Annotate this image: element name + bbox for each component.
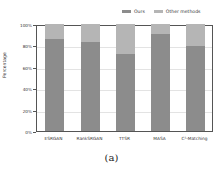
bar-segment-ours (45, 39, 64, 131)
y-tick-label: 100% (20, 23, 32, 28)
x-tick-label: ESRGAN (45, 136, 63, 141)
x-tick-label: TTSR (119, 136, 130, 141)
y-tick-label: 0% (25, 130, 32, 135)
y-tick-mark (33, 132, 36, 133)
y-tick-label: 40% (23, 87, 32, 92)
bar-segment-ours (151, 34, 170, 131)
x-tick-label: MASA (153, 136, 165, 141)
x-tick-label: RankSRGAN (77, 136, 103, 141)
legend-label-ours: Ours (134, 9, 145, 14)
legend-item-other: Other methods (154, 9, 201, 14)
y-tick-label: 80% (23, 44, 32, 49)
y-tick-label: 20% (23, 108, 32, 113)
bar-segment-other-methods (116, 24, 135, 54)
legend-label-other: Other methods (166, 9, 201, 14)
bar-segment-other-methods (81, 24, 100, 42)
bar-segment-ours (81, 42, 100, 131)
legend-swatch-other (154, 10, 163, 14)
bar-c-matching (186, 24, 205, 131)
bar-masa (151, 24, 170, 131)
legend-swatch-ours (122, 10, 131, 14)
legend-item-ours: Ours (122, 9, 145, 14)
bar-ranksrgan (81, 24, 100, 131)
figure-caption: (a) (0, 152, 223, 163)
bar-esrgan (45, 24, 64, 131)
bar-segment-other-methods (186, 24, 205, 46)
x-tick-label: C²-Matching (181, 136, 207, 141)
bar-segment-other-methods (45, 24, 64, 39)
chart-legend: Ours Other methods (122, 9, 209, 14)
bar-segment-other-methods (151, 24, 170, 34)
y-tick-label: 60% (23, 65, 32, 70)
bar-segment-ours (116, 54, 135, 131)
bar-ttsr (116, 24, 135, 131)
bar-segment-ours (186, 46, 205, 131)
plot-area (36, 25, 213, 132)
y-axis-label: Percentage (2, 52, 7, 78)
